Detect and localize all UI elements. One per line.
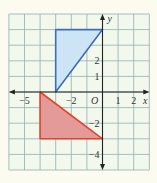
- x-axis-label: x: [142, 95, 148, 106]
- x-tick-label: −2: [66, 95, 77, 106]
- x-tick-label: 1: [116, 95, 121, 106]
- y-tick-label: −4: [89, 149, 100, 160]
- y-tick-label: −2: [89, 118, 100, 129]
- x-tick-label: −5: [19, 95, 30, 106]
- y-axis-label: y: [107, 13, 113, 24]
- origin-label: O: [91, 95, 98, 106]
- y-tick-label: 1: [95, 71, 100, 82]
- y-tick-label: 2: [95, 55, 100, 66]
- coordinate-plane: x y O −5−21221−2−4: [0, 0, 157, 183]
- x-tick-label: 2: [131, 95, 136, 106]
